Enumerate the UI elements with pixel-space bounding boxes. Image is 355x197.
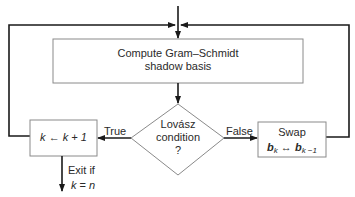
lovasz-line1: Lovász <box>138 118 218 131</box>
exit-label: Exit if k = n <box>68 163 95 193</box>
lovasz-line3: ? <box>138 144 218 157</box>
assign-arrow: ← <box>49 131 60 143</box>
exit-line1: Exit if <box>68 163 95 178</box>
increment-label: k ← k + 1 <box>30 131 97 144</box>
lovasz-label: Lovász condition ? <box>138 118 218 157</box>
exit-op: = <box>80 179 89 191</box>
exit-val: n <box>89 179 95 191</box>
gram-schmidt-line1: Compute Gram–Schmidt <box>53 47 303 60</box>
flowchart-canvas <box>0 0 355 197</box>
vector-b: b <box>295 141 302 153</box>
increment-expr: k + 1 <box>63 131 87 143</box>
lovasz-line2: condition <box>138 131 218 144</box>
swap-line1: Swap <box>258 125 326 140</box>
swap-label: Swap bk ↔ bk −1 <box>258 125 326 158</box>
false-label: False <box>226 125 253 138</box>
true-label: True <box>104 125 126 138</box>
swap-arrow-icon: ↔ <box>281 141 292 153</box>
gram-schmidt-label: Compute Gram–Schmidt shadow basis <box>53 47 303 73</box>
exit-line2: k = n <box>68 178 95 193</box>
increment-var: k <box>40 131 46 143</box>
subscript-k-minus-1: k −1 <box>302 146 317 155</box>
exit-var: k <box>71 179 77 191</box>
vector-b: b <box>267 141 274 153</box>
subscript-k: k <box>274 146 278 155</box>
gram-schmidt-line2: shadow basis <box>53 60 303 73</box>
swap-line2: bk ↔ bk −1 <box>258 140 326 158</box>
